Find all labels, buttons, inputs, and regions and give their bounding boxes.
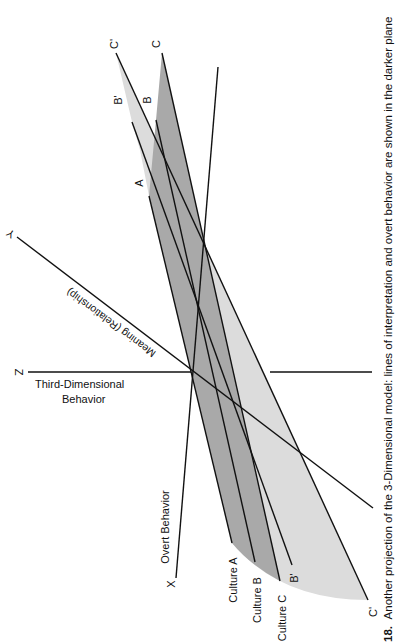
label-top-c: C [150, 40, 162, 48]
z-axis-label-1: Third-Dimensional [35, 378, 124, 390]
x-axis-label: Overt Behavior [159, 490, 171, 564]
z-axis-letter: Z [13, 369, 25, 376]
figure-caption: 18. Another projection of the 3-Dimensio… [382, 17, 394, 642]
y-axis-letter: Y [3, 226, 16, 240]
label-bottom-b-prime: B' [288, 573, 300, 582]
label-top-b: B [141, 96, 153, 103]
label-top-a: A [133, 179, 145, 187]
three-dimensional-model-figure: Z Third-Dimensional Behavior Y Meaning (… [0, 0, 395, 642]
z-axis-label-2: Behavior [62, 393, 106, 405]
label-top-c-prime: C' [108, 39, 120, 49]
x-axis-letter: X [165, 580, 177, 588]
label-top-b-prime: B' [112, 95, 124, 104]
caption-number: 18. [382, 626, 394, 642]
label-culture-a: Culture A [227, 557, 239, 603]
label-culture-b: Culture B [251, 577, 263, 623]
label-culture-c: Culture C [276, 595, 288, 642]
label-bottom-c-prime: C' [367, 607, 379, 617]
caption-text: Another projection of the 3-Dimensional … [382, 17, 394, 620]
y-axis-label: Meaning (Relationship) [64, 286, 158, 360]
